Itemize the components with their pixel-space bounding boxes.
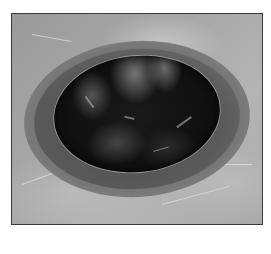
surface-scratch	[32, 34, 72, 42]
debris	[85, 96, 95, 109]
debris	[124, 116, 134, 120]
debris	[176, 116, 192, 128]
debris	[153, 147, 169, 152]
photograph	[11, 13, 263, 225]
